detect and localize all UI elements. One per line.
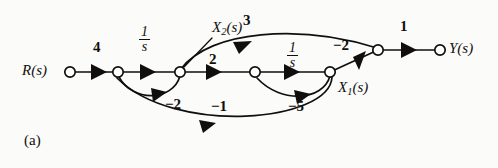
node-x2[interactable] (175, 67, 185, 77)
arrowhead-gain-1 (401, 42, 417, 58)
node-input-r[interactable] (65, 67, 75, 77)
gain-label-neg5-loop: −5 (288, 99, 304, 114)
arrowhead-gain-3 (233, 41, 252, 54)
fraction-denominator: s (287, 55, 298, 70)
node-intermediate[interactable] (250, 67, 260, 77)
gain-label-neg2-diagonal: −2 (333, 38, 349, 53)
node-output-y[interactable] (435, 45, 445, 55)
state-x1-label: X1(s) (338, 80, 368, 98)
state-x1-var: X (338, 79, 347, 95)
state-x2-var: X (212, 19, 221, 35)
edge-x2-to-n2-neg2 (119, 76, 180, 96)
gain-label-3: 3 (243, 13, 251, 28)
leader-line-x2-label (184, 38, 212, 67)
arrowhead-gain-neg2-diagonal (353, 51, 366, 70)
panel-label: (a) (24, 133, 41, 148)
output-node-label: Y(s) (449, 41, 473, 56)
fraction-numerator: 1 (287, 41, 298, 55)
signal-flow-graph-figure: R(s) Y(s) X2(s) X1(s) 4 2 3 1 −2 −2 −1 −… (0, 0, 498, 168)
gain-label-integrator-first: 1 s (139, 25, 150, 55)
input-node-label: R(s) (22, 63, 47, 78)
fraction-one-over-s-first: 1 s (139, 25, 150, 55)
fraction-one-over-s-second: 1 s (287, 41, 298, 71)
fraction-denominator: s (139, 39, 150, 54)
arrowhead-gain-4 (91, 64, 107, 80)
arrowhead-gain-1-over-s-first (140, 64, 156, 80)
state-x1-paren: (s) (352, 79, 368, 95)
gain-label-neg1-loop: −1 (211, 99, 227, 114)
fraction-numerator: 1 (139, 25, 150, 39)
node-output-junction[interactable] (373, 45, 383, 55)
gain-label-2: 2 (209, 52, 217, 67)
gain-label-1: 1 (400, 19, 408, 34)
gain-label-neg2-loop: −2 (165, 97, 181, 112)
edge-n6-to-x1-neg2 (330, 50, 378, 72)
state-x2-label: X2(s) (212, 20, 242, 38)
gain-label-integrator-second: 1 s (287, 41, 298, 71)
gain-label-4: 4 (93, 40, 101, 55)
arrowhead-gain-neg1-loop (199, 120, 216, 133)
node-x1[interactable] (325, 67, 335, 77)
edge-x1-to-n4-neg5 (257, 76, 330, 96)
state-x2-paren: (s) (226, 19, 242, 35)
node-summing-junction[interactable] (113, 67, 123, 77)
